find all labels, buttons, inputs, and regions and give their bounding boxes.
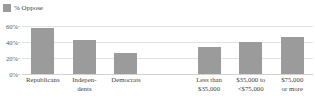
y-axis-tick-label: 40% (6, 39, 18, 46)
x-axis-label-line: $35,000 (189, 85, 229, 94)
x-axis-label-line: Less than (189, 76, 229, 85)
y-axis-tick-label: 60% (6, 23, 18, 30)
x-axis-label-line: Republicans (23, 76, 63, 85)
x-axis-label: $35,000 to<$75,000 (230, 76, 272, 105)
x-axis-label-line: Democrats (106, 76, 146, 85)
plot-area (22, 26, 313, 74)
bar-slot (188, 26, 230, 74)
x-axis-label: Less than$35,000 (188, 76, 230, 105)
x-axis-label-line: dents (65, 85, 105, 94)
x-axis-label-line: or more (272, 85, 312, 94)
x-axis-label-line: Indepen- (65, 76, 105, 85)
bar[interactable] (114, 53, 137, 74)
chart-legend: % Oppose (3, 2, 43, 13)
bar-slot (105, 26, 147, 74)
x-axis-label-line: $75,000 (272, 76, 312, 85)
x-axis-label-line: <$75,000 (231, 85, 271, 94)
legend-label-oppose: % Oppose (14, 4, 43, 12)
y-tick-mark (18, 26, 20, 27)
bar[interactable] (198, 47, 221, 74)
bar-slot (64, 26, 106, 74)
y-axis: 0%20%40%60% (0, 26, 20, 74)
bar-slot (230, 26, 272, 74)
y-tick-mark (18, 58, 20, 59)
bars-layer (22, 26, 313, 74)
x-axis-label: $75,000or more (271, 76, 313, 105)
bar[interactable] (31, 28, 54, 74)
bar[interactable] (281, 37, 304, 74)
legend-swatch-icon (3, 4, 11, 12)
x-axis-label: Republicans (22, 76, 64, 105)
bar[interactable] (239, 42, 262, 74)
gridline-0 (22, 74, 313, 75)
x-axis-label: Indepen-dents (64, 76, 106, 105)
bar-slot (271, 26, 313, 74)
bar[interactable] (73, 40, 96, 74)
bar-slot-empty (147, 26, 189, 74)
x-axis-label-line: $35,000 to (231, 76, 271, 85)
x-axis-label: Democrats (105, 76, 147, 105)
y-axis-tick-label: 20% (6, 55, 18, 62)
x-axis-labels: RepublicansIndepen-dentsDemocratsLess th… (22, 76, 313, 105)
bar-slot (22, 26, 64, 74)
y-tick-mark (18, 42, 20, 43)
bar-chart: % Oppose 0%20%40%60% RepublicansIndepen-… (0, 0, 315, 105)
y-axis-tick-label: 0% (9, 71, 18, 78)
